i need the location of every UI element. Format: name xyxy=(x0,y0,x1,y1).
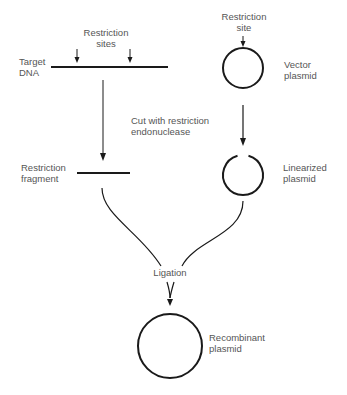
cut-step-label: Cut with restriction endonuclease xyxy=(131,115,209,137)
restriction-fragment-label-line1: Restriction xyxy=(21,162,66,173)
restriction-site-label: Restriction site xyxy=(219,11,269,33)
restriction-site-label-line1: Restriction xyxy=(219,11,269,22)
ligation-curve-right xyxy=(182,201,243,266)
restriction-sites-label: Restriction sites xyxy=(80,27,132,49)
target-dna-label: Target DNA xyxy=(19,56,45,78)
restriction-site-arrow-2 xyxy=(128,49,133,63)
restriction-site-label-line2: site xyxy=(219,22,269,33)
cut-arrow-right xyxy=(240,105,246,146)
restriction-sites-label-line2: sites xyxy=(80,38,132,49)
linearized-plasmid-label-line1: Linearized xyxy=(283,162,327,173)
restriction-sites-label-line1: Restriction xyxy=(80,27,132,38)
vector-plasmid-label-line1: Vector xyxy=(284,59,317,70)
vector-plasmid-label-line2: plasmid xyxy=(284,70,317,81)
target-dna-label-line1: Target xyxy=(19,56,45,67)
restriction-fragment-label: Restriction fragment xyxy=(21,162,66,184)
linearized-plasmid-label: Linearized plasmid xyxy=(283,162,327,184)
vector-plasmid-circle xyxy=(223,48,263,88)
target-dna-label-line2: DNA xyxy=(19,67,45,78)
recombinant-plasmid-circle xyxy=(138,314,202,378)
linearized-plasmid-label-line2: plasmid xyxy=(283,173,327,184)
recombinant-plasmid-label: Recombinant plasmid xyxy=(209,332,265,354)
linearized-plasmid-arc xyxy=(223,156,263,195)
restriction-fragment-label-line2: fragment xyxy=(21,173,66,184)
cut-step-label-line1: Cut with restriction xyxy=(131,115,209,126)
ligation-arrow xyxy=(167,282,174,306)
restriction-site-arrow-1 xyxy=(75,49,80,63)
vector-restriction-site-arrow xyxy=(241,36,246,47)
cut-step-label-line2: endonuclease xyxy=(131,126,209,137)
ligation-label: Ligation xyxy=(148,267,192,278)
recombinant-plasmid-label-line1: Recombinant xyxy=(209,332,265,343)
cut-arrow-left xyxy=(100,80,106,161)
recombinant-plasmid-label-line2: plasmid xyxy=(209,343,265,354)
ligation-curve-left xyxy=(102,188,161,266)
vector-plasmid-label: Vector plasmid xyxy=(284,59,317,81)
